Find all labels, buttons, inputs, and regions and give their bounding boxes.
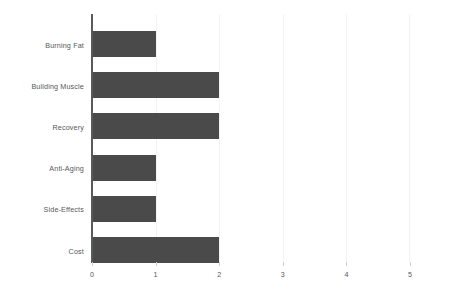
x-axis-tick-4 — [346, 262, 347, 266]
gridline-4 — [346, 14, 347, 262]
y-axis-label-recovery: Recovery — [4, 123, 84, 132]
bar-burning-fat — [92, 31, 156, 57]
x-axis-tick-label-4: 4 — [334, 270, 358, 279]
gridline-3 — [283, 14, 284, 262]
y-axis-label-cost: Cost — [4, 247, 84, 256]
x-axis-tick-5 — [410, 262, 411, 266]
gridline-2 — [219, 14, 220, 262]
y-axis-label-anti-aging: Anti-Aging — [4, 164, 84, 173]
y-axis-label-side-effects: Side-Effects — [4, 205, 84, 214]
bar-anti-aging — [92, 155, 156, 181]
x-axis-tick-label-1: 1 — [144, 270, 168, 279]
gridline-5 — [409, 14, 410, 262]
x-axis-tick-3 — [283, 262, 284, 266]
x-axis-tick-1 — [156, 262, 157, 266]
x-axis-tick-2 — [219, 262, 220, 266]
bar-building-muscle — [92, 72, 219, 98]
bar-cost — [92, 237, 219, 263]
y-axis-line — [91, 14, 93, 263]
x-axis-tick-label-0: 0 — [80, 270, 104, 279]
x-axis-tick-label-2: 2 — [207, 270, 231, 279]
bar-recovery — [92, 113, 219, 139]
plot-area — [92, 14, 410, 262]
bar-side-effects — [92, 196, 156, 222]
y-axis-label-building-muscle: Building Muscle — [4, 82, 84, 91]
y-axis-label-burning-fat: Burning Fat — [4, 41, 84, 50]
x-axis-tick-label-5: 5 — [398, 270, 422, 279]
x-axis-tick-0 — [92, 262, 93, 266]
bar-chart: Burning Fat Building Muscle Recovery Ant… — [0, 0, 452, 295]
x-axis-tick-label-3: 3 — [271, 270, 295, 279]
